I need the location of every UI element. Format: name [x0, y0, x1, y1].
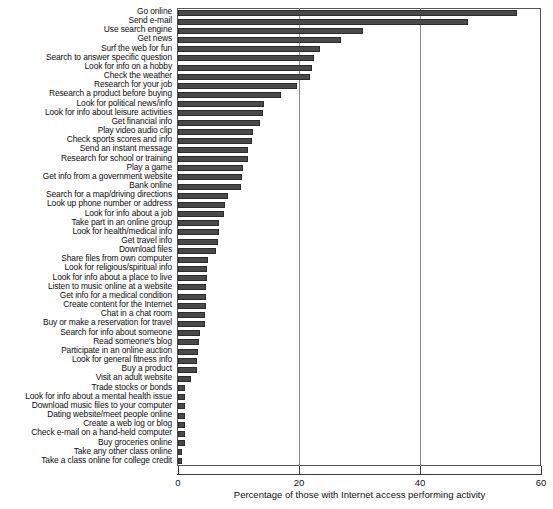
bar-row: Look for health/medical info	[0, 228, 553, 237]
bar	[178, 211, 224, 217]
bar	[178, 284, 206, 290]
bar	[178, 376, 191, 382]
bar-row: Check e-mail on a hand-held computer	[0, 429, 553, 438]
x-tick-label: 20	[294, 477, 305, 488]
x-tick	[541, 466, 542, 474]
bar	[178, 193, 228, 199]
bar	[178, 202, 225, 208]
bar-row: Take a class online for college credit	[0, 457, 553, 466]
bar-row: Get financial info	[0, 118, 553, 127]
bar	[178, 28, 363, 34]
bar-row: Look for info on a hobby	[0, 63, 553, 72]
x-tick-label: 0	[175, 477, 180, 488]
x-axis-title: Percentage of those with Internet access…	[177, 489, 542, 500]
bar	[178, 422, 185, 428]
bar	[178, 330, 200, 336]
bar	[178, 257, 208, 263]
bar-row: Get info from a government website	[0, 173, 553, 182]
bar	[178, 46, 320, 52]
bar	[178, 358, 197, 364]
bar-row: Get news	[0, 35, 553, 44]
horizontal-bar-chart: Go onlineSend e-mailUse search engineGet…	[0, 0, 553, 509]
bar	[178, 74, 310, 80]
bar	[178, 156, 248, 162]
bar	[178, 92, 281, 98]
bar	[178, 403, 185, 409]
bar	[178, 165, 243, 171]
bar-row: Create content for the Internet	[0, 301, 553, 310]
bar	[178, 147, 248, 153]
bar	[178, 321, 205, 327]
bar	[178, 385, 185, 391]
x-tick	[178, 466, 179, 474]
bar	[178, 101, 264, 107]
bar	[178, 55, 314, 61]
bar-row: Go online	[0, 8, 553, 17]
bar	[178, 394, 185, 400]
bar	[178, 275, 207, 281]
bar-row: Check the weather	[0, 72, 553, 81]
bar	[178, 312, 205, 318]
bar-row: Buy a product	[0, 365, 553, 374]
bar-row: Look for general fitness info	[0, 356, 553, 365]
bar	[178, 349, 198, 355]
bar-row: Search to answer specific question	[0, 54, 553, 63]
bar	[178, 294, 206, 300]
bar	[178, 19, 468, 25]
bar	[178, 303, 206, 309]
bar	[178, 10, 517, 16]
bar	[178, 83, 297, 89]
bar	[178, 239, 218, 245]
bar-row: Research for school or training	[0, 155, 553, 164]
bar	[178, 431, 185, 437]
bar-row: Visit an adult website	[0, 374, 553, 383]
bar	[178, 449, 182, 455]
bar	[178, 220, 219, 226]
category-label: Take a class online for college credit	[41, 456, 172, 465]
bar	[178, 174, 242, 180]
bar	[178, 129, 253, 135]
x-tick	[299, 466, 300, 474]
bar	[178, 229, 219, 235]
x-axis-line	[177, 474, 542, 475]
bar-row: Use search engine	[0, 26, 553, 35]
bar	[178, 367, 197, 373]
bar	[178, 458, 182, 464]
bar	[178, 65, 312, 71]
bar	[178, 266, 207, 272]
bar	[178, 339, 199, 345]
bar-row: Get travel info	[0, 237, 553, 246]
bar	[178, 120, 260, 126]
bar	[178, 413, 185, 419]
bar	[178, 184, 241, 190]
bar	[178, 138, 252, 144]
x-tick-label: 40	[415, 477, 426, 488]
x-tick-label: 60	[536, 477, 547, 488]
bar-row: Search for info about someone	[0, 329, 553, 338]
bar-row: Send e-mail	[0, 17, 553, 26]
bar-row: Look for info about leisure activities	[0, 109, 553, 118]
bar-rows: Go onlineSend e-mailUse search engineGet…	[0, 8, 553, 466]
bar	[178, 248, 216, 254]
bar	[178, 110, 263, 116]
bar	[178, 440, 185, 446]
bar-row: Look up phone number or address	[0, 200, 553, 209]
x-tick	[420, 466, 421, 474]
bar	[178, 37, 341, 43]
